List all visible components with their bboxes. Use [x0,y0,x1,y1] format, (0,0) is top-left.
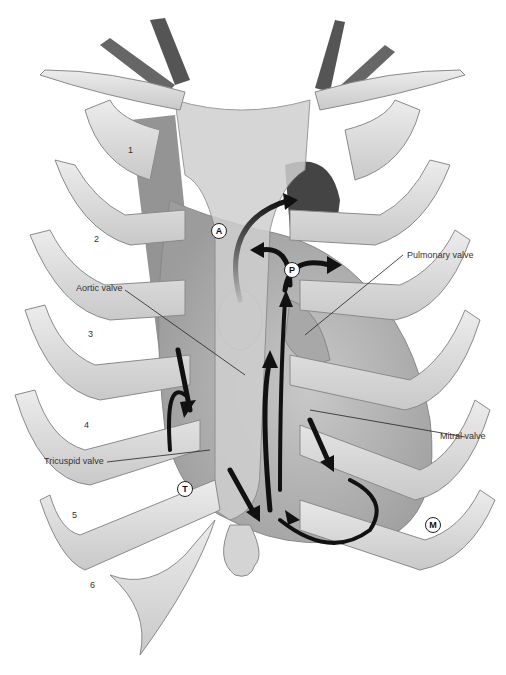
pulmonary-valve-label: Pulmonary valve [407,250,474,260]
tricuspid-area-marker: T [177,481,193,497]
rib-number-6: 6 [90,580,95,590]
rib-number-5: 5 [72,510,77,520]
aortic-valve-label: Aortic valve [76,283,123,293]
mitral-area-marker: M [425,517,441,533]
pulmonary-area-marker: P [284,262,300,278]
tricuspid-valve-label: Tricuspid valve [44,456,104,466]
aortic-area-marker: A [211,223,227,239]
rib-number-1: 1 [128,145,133,155]
rib-number-3: 3 [88,329,93,339]
ribs-left [15,100,220,655]
chest-heart-illustration [0,0,506,675]
mitral-valve-label: Mitral valve [440,431,486,441]
rib-number-2: 2 [94,234,99,244]
rib-number-4: 4 [84,420,89,430]
